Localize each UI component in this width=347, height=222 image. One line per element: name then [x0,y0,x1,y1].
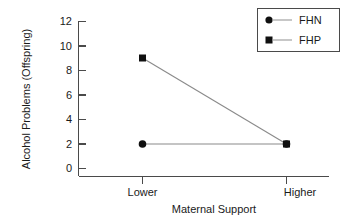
y-tick-label-10: 10 [60,40,72,52]
y-tick-label-0: 0 [66,162,72,174]
legend-square-icon [266,37,273,44]
y-tick-label-8: 8 [66,64,72,76]
y-tick-label-2: 2 [66,138,72,150]
y-tick-label-12: 12 [60,15,72,27]
series-line-fhp [143,58,287,144]
data-point-fhp-lower [139,55,146,62]
data-point-fhn-higher [283,140,291,148]
y-axis-title: Alcohol Problems (Offspring) [20,29,32,169]
legend: FHN FHP [258,9,340,52]
legend-circle-icon [265,16,272,23]
x-axis-title: Maternal Support [172,203,256,215]
data-point-fhn-lower [139,140,147,148]
y-tick-label-6: 6 [66,89,72,101]
legend-label-fhp: FHP [299,34,321,46]
x-tick-label-lower: Lower [128,186,158,198]
legend-label-fhn: FHN [299,14,322,26]
x-tick-label-higher: Higher [284,186,317,198]
line-chart: 12 10 8 6 4 2 0 Lower Higher Maternal Su… [0,0,347,222]
y-tick-label-4: 4 [66,113,72,125]
chart-canvas: 12 10 8 6 4 2 0 Lower Higher Maternal Su… [0,0,347,222]
